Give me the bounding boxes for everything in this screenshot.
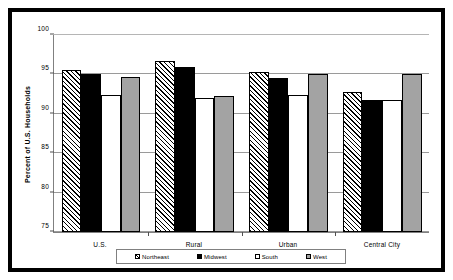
chart-outer-frame: Percent of U.S. Households 7580859095100… [8, 8, 445, 272]
bar-central-city-northeast[interactable] [343, 92, 363, 232]
x-tick-mark [148, 232, 149, 236]
y-axis-title: Percent of U.S. Households [20, 35, 34, 233]
bar-urban-northeast[interactable] [249, 72, 269, 232]
y-tick-label: 80 [41, 182, 49, 189]
bar-u-s-midwest[interactable] [81, 74, 101, 232]
y-tick-label: 75 [41, 222, 49, 229]
legend-label: West [313, 254, 327, 260]
plot-area: 7580859095100 [53, 35, 429, 233]
x-axis-label-rural: Rural [147, 241, 241, 248]
y-axis-title-text: Percent of U.S. Households [24, 86, 31, 183]
legend-item-midwest[interactable]: Midwest [197, 254, 227, 260]
legend-label: Midwest [204, 254, 227, 260]
bar-group-urban [242, 35, 336, 232]
bar-central-city-midwest[interactable] [362, 100, 382, 232]
bar-rural-midwest[interactable] [175, 67, 195, 232]
y-tick-label: 95 [41, 64, 49, 71]
bar-rural-south[interactable] [195, 98, 215, 232]
x-tick-mark [335, 232, 336, 236]
bars-layer [54, 35, 429, 232]
chart-legend: NortheastMidwestSouthWest [116, 249, 346, 264]
y-tick-label: 100 [38, 25, 49, 32]
y-tick-label: 90 [41, 103, 49, 110]
bars-row [148, 35, 242, 232]
legend-swatch-midwest-icon [197, 254, 202, 259]
legend-label: South [262, 254, 278, 260]
bar-central-city-south[interactable] [382, 100, 402, 232]
bar-urban-midwest[interactable] [269, 78, 289, 232]
x-axis-label-central-city: Central City [335, 241, 429, 248]
legend-swatch-west-icon [306, 254, 311, 259]
bar-urban-south[interactable] [288, 95, 308, 232]
bar-central-city-west[interactable] [402, 74, 422, 232]
legend-item-south[interactable]: South [255, 254, 278, 260]
x-axis-labels: U.S.RuralUrbanCentral City [53, 241, 429, 248]
bar-group-rural [148, 35, 242, 232]
chart-canvas: Percent of U.S. Households 7580859095100… [12, 12, 441, 268]
bars-row [335, 35, 429, 232]
x-tick-mark [242, 232, 243, 236]
y-tick-label: 85 [41, 143, 49, 150]
bar-u-s-northeast[interactable] [62, 70, 82, 232]
legend-swatch-northeast-icon [135, 254, 140, 259]
legend-item-northeast[interactable]: Northeast [135, 254, 169, 260]
bar-rural-west[interactable] [214, 96, 234, 232]
bar-urban-west[interactable] [308, 74, 328, 232]
legend-label: Northeast [142, 254, 169, 260]
bar-rural-northeast[interactable] [155, 61, 175, 232]
bar-group-u-s [54, 35, 148, 232]
legend-swatch-south-icon [255, 254, 260, 259]
bar-group-central-city [335, 35, 429, 232]
x-axis-label-u-s: U.S. [53, 241, 147, 248]
legend-item-west[interactable]: West [306, 254, 327, 260]
x-axis-label-urban: Urban [241, 241, 335, 248]
bars-row [242, 35, 336, 232]
bars-row [54, 35, 148, 232]
bar-u-s-south[interactable] [101, 95, 121, 232]
bar-u-s-west[interactable] [121, 77, 141, 232]
